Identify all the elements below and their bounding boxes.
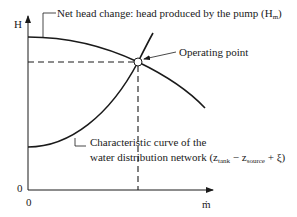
operating-point-label: Operating point — [179, 46, 248, 58]
pump-curve-label-text: Net head change: head produced by the pu… — [57, 7, 273, 19]
system-curve-sub-source: source — [247, 157, 265, 165]
y-axis-label: H — [14, 18, 22, 30]
system-curve — [28, 33, 153, 147]
operating-point-arrow — [144, 52, 176, 59]
pump-curve-label: Net head change: head produced by the pu… — [57, 7, 282, 23]
y-origin-label: 0 — [17, 182, 23, 194]
system-curve-sub-tank: tank — [218, 157, 230, 165]
system-curve-minus: − z — [230, 151, 247, 163]
system-curve-label-text: water distribution network (z — [90, 151, 218, 163]
pump-system-diagram — [0, 0, 297, 217]
pump-label-leader — [43, 13, 56, 37]
operating-point-marker — [134, 58, 142, 66]
system-curve-label-line2: water distribution network (ztank − zsou… — [90, 151, 285, 167]
system-curve-label-line1: Characteristic curve of the — [90, 136, 206, 148]
system-curve-suffix: + ξ) — [265, 151, 285, 163]
system-label-leader — [75, 138, 86, 146]
x-axis-label: ṁ — [202, 198, 211, 210]
pump-curve-label-suffix: ) — [278, 7, 282, 19]
x-origin-label: 0 — [26, 196, 32, 208]
